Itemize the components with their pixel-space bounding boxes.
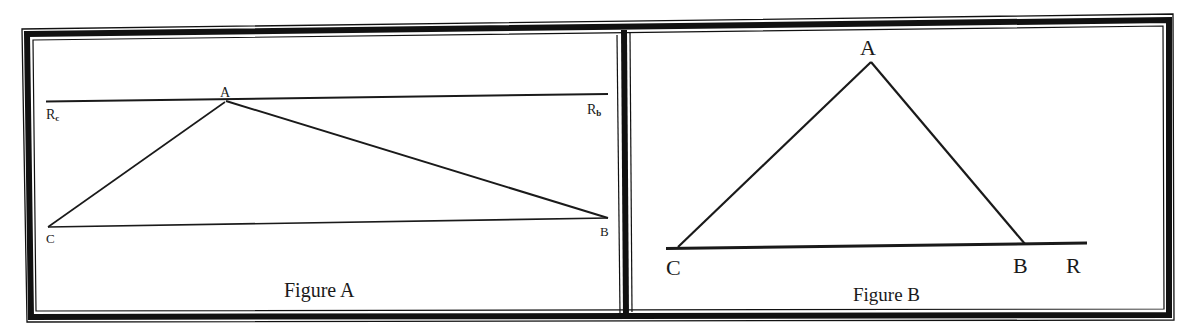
figure-b-panel: A C B R Figure B xyxy=(666,35,1087,305)
parallel-line-rc-rb xyxy=(46,94,608,102)
label-ray-r: R xyxy=(1066,253,1081,278)
segment-cb xyxy=(48,218,608,227)
segment-ca xyxy=(678,62,871,247)
figure-a-panel: A C B Rc Rb Figure A xyxy=(46,85,609,302)
label-point-a: A xyxy=(220,85,231,100)
segment-ab xyxy=(871,62,1025,244)
label-point-a: A xyxy=(860,35,876,60)
ray-c-b-r xyxy=(666,243,1087,249)
figure-b-caption: Figure B xyxy=(853,284,920,305)
segment-ca xyxy=(48,102,225,227)
label-point-b: B xyxy=(600,224,609,239)
outer-frame xyxy=(22,14,1174,322)
label-rc: Rc xyxy=(46,107,59,123)
panel-divider xyxy=(617,30,632,316)
figure-a-caption: Figure A xyxy=(284,279,355,302)
label-rb-sub: b xyxy=(596,108,601,118)
label-rb: Rb xyxy=(587,102,601,118)
geometry-diagram: A C B Rc Rb Figure A A C B R Figure B xyxy=(0,0,1191,335)
label-point-b: B xyxy=(1013,253,1028,278)
label-point-c: C xyxy=(666,255,681,280)
label-point-c: C xyxy=(46,231,55,246)
label-rc-sub: c xyxy=(55,113,59,123)
segment-ab xyxy=(226,101,608,218)
